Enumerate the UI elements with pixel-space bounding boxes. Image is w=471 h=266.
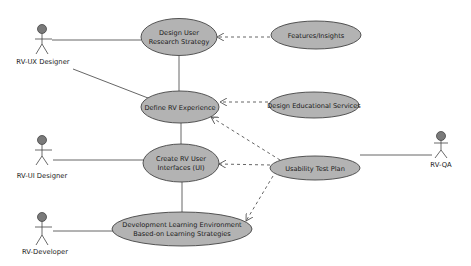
actor-head-icon [38, 136, 47, 145]
dependencies [211, 37, 280, 221]
actor-label: RV-UI Designer [17, 172, 68, 180]
actor-ui-designer[interactable]: RV-UI Designer [17, 136, 68, 181]
use-case-label: Features/Insights [288, 32, 345, 40]
use-case-label: Based-on Learning Strategies [133, 230, 231, 238]
actor-label: RV-QA [430, 161, 452, 169]
actor-head-icon [38, 213, 47, 222]
actor-label: RV-Developer [22, 248, 68, 256]
use-case-create[interactable]: Create RV User Interfaces (UI) [143, 144, 219, 182]
dep-usability-create [219, 164, 270, 165]
actor-label: RV-UX Designer [16, 58, 69, 66]
assoc-ux-define [73, 69, 148, 98]
actor-developer[interactable]: RV-Developer [22, 213, 68, 257]
use-case-label: Design User [159, 29, 199, 37]
associations [52, 40, 432, 231]
actor-qa[interactable]: RV-QA [430, 132, 452, 170]
use-case-label: Design Educational Services [267, 102, 361, 110]
use-case-label: Interfaces (UI) [158, 164, 205, 172]
actor-head-icon [437, 132, 446, 141]
use-case-research[interactable]: Design User Research Strategy [141, 19, 217, 56]
use-case-usability[interactable]: Usability Test Plan [270, 156, 360, 180]
dep-usability-define [211, 117, 280, 160]
use-case-edu[interactable]: Design Educational Services [267, 92, 361, 118]
use-case-label: Usability Test Plan [285, 165, 345, 173]
actor-ux-designer[interactable]: RV-UX Designer [16, 25, 69, 67]
use-case-devenv[interactable]: Development Learning Environment Based-o… [112, 212, 252, 246]
use-case-define[interactable]: Define RV Experience [141, 91, 219, 123]
use-case-label: Development Learning Environment [122, 221, 242, 229]
actor-head-icon [38, 25, 47, 34]
use-case-label: Research Strategy [149, 38, 210, 46]
use-case-features[interactable]: Features/Insights [271, 21, 361, 49]
use-case-label: Create RV User [156, 155, 206, 163]
use-case-diagram: Design User Research Strategy Features/I… [0, 0, 471, 266]
dep-usability-devenv [246, 176, 273, 221]
use-case-label: Define RV Experience [144, 104, 215, 112]
